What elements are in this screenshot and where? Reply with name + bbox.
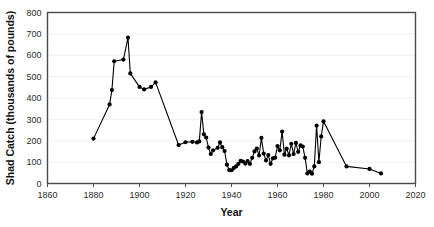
data-point — [248, 162, 252, 166]
data-point — [218, 140, 222, 144]
data-point — [128, 71, 132, 75]
x-tick-label: 1920 — [175, 190, 195, 200]
x-tick-label: 2020 — [405, 190, 425, 200]
data-point — [294, 141, 298, 145]
data-point — [206, 145, 210, 149]
data-point — [126, 36, 130, 40]
data-point — [264, 158, 268, 162]
data-point — [379, 171, 383, 175]
data-point — [216, 146, 220, 150]
x-tick-label: 1880 — [83, 190, 103, 200]
chart-canvas: 1860188019001920194019601980200020208007… — [0, 0, 434, 227]
data-point — [319, 134, 323, 138]
y-tick-label: 600 — [26, 50, 41, 60]
y-tick-label: 300 — [26, 115, 41, 125]
data-point — [250, 156, 254, 160]
data-point — [108, 102, 112, 106]
data-point — [367, 167, 371, 171]
data-point — [91, 137, 95, 141]
data-point — [310, 172, 314, 176]
y-tick-label: 800 — [26, 8, 41, 18]
y-tick-label: 500 — [26, 72, 41, 82]
y-axis-title: Shad Catch (thousands of pounds) — [4, 11, 16, 185]
data-point — [220, 145, 224, 149]
data-point — [278, 148, 282, 152]
data-point — [292, 152, 296, 156]
y-axis-tick-labels: 8007006005004003002001000 — [26, 8, 41, 189]
x-tick-label: 2000 — [359, 190, 379, 200]
data-point — [142, 87, 146, 91]
data-point — [154, 80, 158, 84]
data-point — [262, 151, 266, 155]
data-point — [197, 139, 201, 143]
data-point — [177, 143, 181, 147]
data-point — [344, 164, 348, 168]
data-point — [273, 156, 277, 160]
data-point — [257, 153, 261, 157]
x-tick-label: 1940 — [221, 190, 241, 200]
data-point — [204, 135, 208, 139]
data-point — [110, 88, 114, 92]
data-point — [321, 119, 325, 123]
data-point — [282, 153, 286, 157]
data-point — [275, 144, 279, 148]
data-point — [200, 110, 204, 114]
x-tick-label: 1980 — [313, 190, 333, 200]
shad-catch-line-chart: 1860188019001920194019601980200020208007… — [0, 0, 434, 227]
y-tick-label: 200 — [26, 136, 41, 146]
data-point — [259, 136, 263, 140]
data-point — [303, 156, 307, 160]
y-tick-label: 700 — [26, 29, 41, 39]
data-point — [190, 140, 194, 144]
series-line — [94, 38, 382, 174]
data-point — [289, 142, 293, 146]
x-tick-label: 1960 — [267, 190, 287, 200]
data-series — [91, 36, 383, 176]
data-point — [149, 85, 153, 89]
data-point — [280, 129, 284, 133]
data-point — [211, 148, 215, 152]
data-point — [266, 153, 270, 157]
data-point — [112, 59, 116, 63]
gridlines — [48, 13, 416, 163]
x-axis-tick-labels: 186018801900192019401960198020002020 — [37, 190, 425, 200]
x-tick-label: 1900 — [129, 190, 149, 200]
data-point — [301, 144, 305, 148]
data-point — [137, 85, 141, 89]
data-point — [269, 162, 273, 166]
y-tick-label: 0 — [36, 179, 41, 189]
y-tick-label: 400 — [26, 93, 41, 103]
data-point — [255, 147, 259, 151]
data-point — [312, 164, 316, 168]
x-axis-title: Year — [220, 206, 242, 218]
y-tick-label: 100 — [26, 157, 41, 167]
data-point — [225, 163, 229, 167]
data-point — [121, 57, 125, 61]
data-point — [183, 140, 187, 144]
data-point — [209, 152, 213, 156]
x-tick-label: 1860 — [37, 190, 57, 200]
data-point — [287, 153, 291, 157]
data-point — [285, 147, 289, 151]
data-point — [296, 150, 300, 154]
data-point — [315, 123, 319, 127]
data-point — [317, 160, 321, 164]
data-point — [223, 149, 227, 153]
